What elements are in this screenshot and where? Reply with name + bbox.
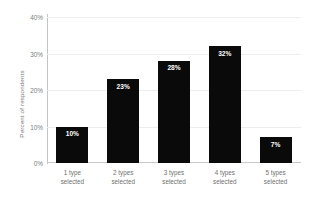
x-label-1-line1: 1 type (47, 168, 98, 177)
bar-slot-3: 28% (149, 17, 200, 163)
x-label-4-line1: 4 types (199, 168, 250, 177)
x-axis-category-labels: 1 type selected 2 types selected 3 types… (47, 168, 301, 196)
x-label-5: 5 types selected (250, 168, 301, 186)
bar-1-type-selected[interactable]: 10% (56, 127, 88, 164)
bar-2-types-selected[interactable]: 23% (107, 79, 139, 163)
bar-value-label-5: 7% (260, 141, 292, 149)
plot-area: 10% 23% 28% 32% 7% (47, 17, 301, 163)
x-label-1: 1 type selected (47, 168, 98, 186)
y-axis-tick-labels: 40% 30% 20% 10% 0% (0, 0, 43, 203)
bar-value-label-1: 10% (56, 130, 88, 138)
bar-value-label-4: 32% (209, 50, 241, 58)
x-label-2-line1: 2 types (98, 168, 149, 177)
x-label-4-line2: selected (199, 177, 250, 186)
x-label-3: 3 types selected (149, 168, 200, 186)
bar-chart: Percent of respondents 40% 30% 20% 10% 0… (0, 0, 313, 203)
bar-value-label-2: 23% (107, 83, 139, 91)
y-tick-label-30: 30% (7, 51, 43, 58)
x-label-3-line1: 3 types (149, 168, 200, 177)
bar-slot-4: 32% (199, 17, 250, 163)
bar-4-types-selected[interactable]: 32% (209, 46, 241, 163)
y-tick-label-40: 40% (7, 14, 43, 21)
x-label-4: 4 types selected (199, 168, 250, 186)
x-label-3-line2: selected (149, 177, 200, 186)
bar-slot-1: 10% (47, 17, 98, 163)
bar-slot-5: 7% (250, 17, 301, 163)
x-label-1-line2: selected (47, 177, 98, 186)
y-tick-label-10: 10% (7, 124, 43, 131)
x-label-2: 2 types selected (98, 168, 149, 186)
y-tick-label-0: 0% (7, 160, 43, 167)
x-label-5-line1: 5 types (250, 168, 301, 177)
y-tick-label-20: 20% (7, 87, 43, 94)
bar-5-types-selected[interactable]: 7% (260, 137, 292, 163)
x-label-2-line2: selected (98, 177, 149, 186)
bar-3-types-selected[interactable]: 28% (158, 61, 190, 163)
x-label-5-line2: selected (250, 177, 301, 186)
bar-value-label-3: 28% (158, 64, 190, 72)
bar-slot-2: 23% (98, 17, 149, 163)
